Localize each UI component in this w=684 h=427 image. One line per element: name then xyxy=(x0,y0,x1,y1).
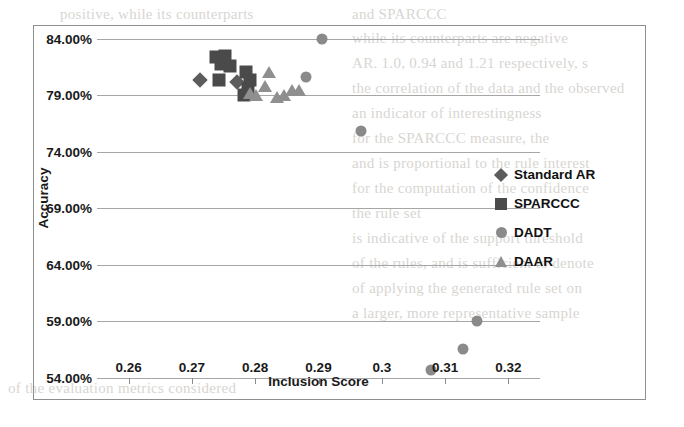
data-point-circle xyxy=(316,33,327,44)
legend-item-daar: DAAR xyxy=(494,247,595,276)
legend-item-dadt: DADT xyxy=(494,218,595,247)
y-axis-tick-label: 79.00% xyxy=(46,88,92,103)
diamond-marker-icon xyxy=(494,168,508,182)
data-point-circle xyxy=(471,316,482,327)
x-axis-tick-label: 0.26 xyxy=(116,360,142,375)
y-gridline xyxy=(97,208,540,209)
x-axis-tick-label: 0.3 xyxy=(372,360,391,375)
y-axis-title: Accuracy xyxy=(36,168,51,229)
data-point-circle xyxy=(355,126,366,137)
triangle-marker-icon xyxy=(494,255,508,269)
y-axis-tick-label: 69.00% xyxy=(46,201,92,216)
y-axis-tick-label: 64.00% xyxy=(46,257,92,272)
data-point-circle xyxy=(457,343,468,354)
legend-item-label: Standard AR xyxy=(514,167,595,182)
x-axis-tick-label: 0.29 xyxy=(305,360,331,375)
data-point-circle xyxy=(300,71,311,82)
legend-item-standard-ar: Standard AR xyxy=(494,160,595,189)
x-axis-tick-label: 0.31 xyxy=(432,360,458,375)
legend-item-sparccc: SPARCCC xyxy=(494,189,595,218)
x-axis-tick-label: 0.27 xyxy=(179,360,205,375)
square-marker-icon xyxy=(494,197,508,211)
data-point-triangle xyxy=(292,84,306,96)
circle-marker-icon xyxy=(494,226,508,240)
y-axis-tick-label: 84.00% xyxy=(46,31,92,46)
y-axis-tick-label: 74.00% xyxy=(46,144,92,159)
data-point-square xyxy=(223,59,236,72)
y-gridline xyxy=(97,265,540,266)
data-point-triangle xyxy=(243,87,257,99)
x-axis-title: Inclusion Score xyxy=(97,374,540,389)
data-point-triangle xyxy=(270,91,284,103)
legend-item-label: DADT xyxy=(514,225,552,240)
chart-legend: Standard ARSPARCCCDADTDAAR xyxy=(494,160,595,276)
legend-item-label: SPARCCC xyxy=(514,196,580,211)
y-axis-tick-label: 54.00% xyxy=(46,371,92,386)
y-axis-tick-label: 59.00% xyxy=(46,314,92,329)
data-point-diamond xyxy=(192,72,208,88)
data-point-square xyxy=(213,73,226,86)
y-gridline xyxy=(97,95,540,96)
x-axis-tick-label: 0.28 xyxy=(242,360,268,375)
x-axis-tick-label: 0.32 xyxy=(495,360,521,375)
legend-item-label: DAAR xyxy=(514,254,553,269)
plot-area xyxy=(97,22,540,378)
y-gridline xyxy=(97,152,540,153)
data-point-triangle xyxy=(262,66,276,78)
